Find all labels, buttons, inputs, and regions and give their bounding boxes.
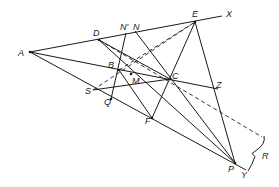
label-q: Q bbox=[104, 97, 111, 107]
label-z: Z bbox=[215, 80, 222, 90]
label-np: N' bbox=[120, 22, 128, 32]
point-a bbox=[29, 51, 32, 54]
label-m: M bbox=[132, 76, 140, 86]
label-d: D bbox=[93, 28, 100, 38]
line-e-p bbox=[195, 22, 235, 163]
line-a-z bbox=[30, 52, 218, 89]
point-m bbox=[130, 73, 133, 76]
line-e-f bbox=[152, 22, 195, 118]
label-y: Y bbox=[241, 170, 248, 180]
label-e: E bbox=[192, 9, 199, 19]
point-p bbox=[234, 162, 237, 165]
label-p: P bbox=[228, 164, 234, 174]
point-labels: ADEXN'NBMCZSQFPYR bbox=[17, 9, 269, 180]
label-x: X bbox=[225, 9, 233, 19]
solid-lines bbox=[30, 16, 246, 170]
point-c bbox=[169, 78, 172, 81]
label-r: R bbox=[262, 151, 269, 161]
points bbox=[29, 21, 237, 165]
label-f: F bbox=[145, 116, 151, 126]
dashed-line-b-e bbox=[119, 22, 195, 70]
label-n: N bbox=[133, 22, 140, 32]
label-a: A bbox=[17, 48, 24, 58]
label-c: C bbox=[172, 71, 179, 81]
line-d-p bbox=[99, 40, 235, 163]
point-f bbox=[151, 117, 154, 120]
label-b: B bbox=[108, 60, 114, 70]
line-a-y bbox=[30, 52, 246, 170]
point-d bbox=[98, 39, 101, 42]
geometry-diagram: ADEXN'NBMCZSQFPYR bbox=[0, 0, 279, 187]
point-b bbox=[118, 69, 121, 72]
label-s: S bbox=[85, 86, 91, 96]
point-e bbox=[194, 21, 197, 24]
